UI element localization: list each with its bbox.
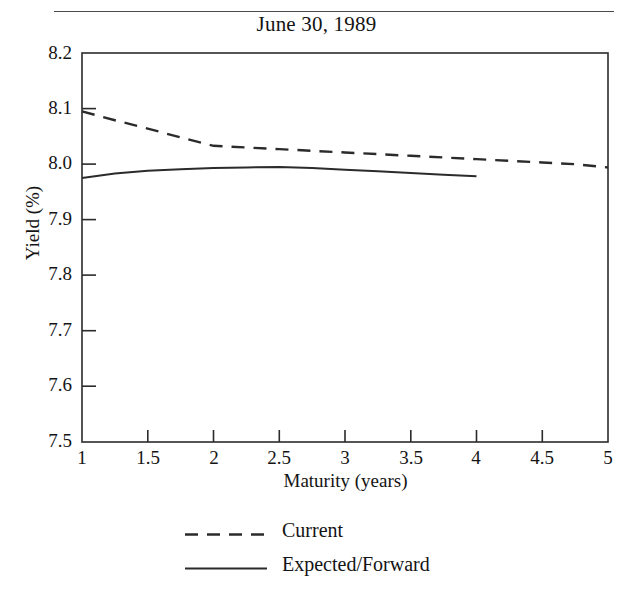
series-current xyxy=(82,111,608,167)
x-axis-ticks xyxy=(148,430,543,442)
legend-solid-line-sample xyxy=(185,567,267,570)
x-tick-label-1: 1 xyxy=(58,447,106,469)
x-tick-label-1-5: 1.5 xyxy=(124,447,172,469)
x-tick-label-2: 2 xyxy=(190,447,238,469)
x-tick-label-5: 5 xyxy=(584,447,632,469)
legend-item-expected-forward: Expected/Forward xyxy=(185,553,515,587)
x-axis-title: Maturity (years) xyxy=(82,470,609,492)
x-tick-label-2-5: 2.5 xyxy=(255,447,303,469)
legend-item-current: Current xyxy=(185,519,515,553)
x-tick-label-3: 3 xyxy=(321,447,369,469)
x-tick-label-3-5: 3.5 xyxy=(387,447,435,469)
plot-canvas xyxy=(0,0,633,589)
yield-curve-figure: , June 30, 1989 Yield (%) 8.2 8.1 8.0 7.… xyxy=(0,0,633,589)
chart-legend: Current Expected/Forward xyxy=(185,519,515,587)
legend-label-current: Current xyxy=(282,519,343,542)
legend-label-expected-forward: Expected/Forward xyxy=(282,553,430,576)
axes-frame xyxy=(82,53,608,442)
series-expected-forward xyxy=(82,167,477,178)
x-tick-label-4-5: 4.5 xyxy=(518,447,566,469)
legend-dashed-line-sample xyxy=(185,533,267,536)
y-axis-ticks xyxy=(82,109,96,387)
x-tick-label-4: 4 xyxy=(452,447,500,469)
